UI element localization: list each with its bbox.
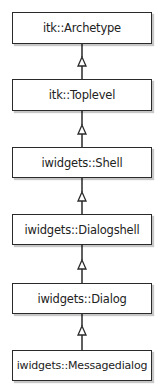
class-hierarchy-diagram: itk::Archetype itk::Toplevel iwidgets::S…: [0, 0, 165, 388]
class-label: itk::Toplevel: [49, 88, 115, 102]
inherit-arrow-shell-toplevel: [78, 111, 86, 147]
class-box-messagedialog: iwidgets::Messagedialog: [12, 350, 152, 381]
inherit-arrow-dialogshell-shell: [78, 178, 86, 214]
class-label: iwidgets::Shell: [42, 156, 123, 170]
class-box-archetype: itk::Archetype: [12, 12, 152, 44]
inherit-arrow-dialog-dialogshell: [78, 245, 86, 283]
class-label: iwidgets::Messagedialog: [17, 359, 147, 372]
class-box-dialogshell: iwidgets::Dialogshell: [12, 214, 152, 245]
inherit-arrow-messagedialog-dialog: [78, 313, 86, 350]
class-label: iwidgets::Dialog: [37, 292, 126, 306]
class-box-dialog: iwidgets::Dialog: [12, 283, 152, 314]
class-box-toplevel: itk::Toplevel: [12, 79, 152, 111]
inheritance-connectors: [0, 0, 165, 388]
inherit-arrow-toplevel-archetype: [78, 44, 86, 79]
class-label: iwidgets::Dialogshell: [25, 223, 140, 237]
class-label: itk::Archetype: [43, 21, 121, 35]
class-box-shell: iwidgets::Shell: [12, 147, 152, 178]
